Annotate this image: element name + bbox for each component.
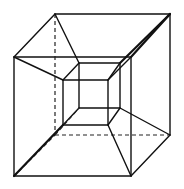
- inner-cube: [63, 63, 120, 125]
- connector-front-bottom-right: [108, 125, 131, 176]
- inner-back-face: [79, 63, 120, 108]
- inner-edge-tl: [63, 63, 79, 80]
- outer-edge-top-left: [14, 14, 55, 57]
- connector-back-bottom-right: [120, 108, 170, 135]
- inner-edge-br: [108, 108, 120, 125]
- tesseract-diagram: [0, 0, 184, 189]
- connector-front-top-left: [14, 57, 63, 80]
- connector-back-top-left: [55, 14, 79, 63]
- outer-edge-bottom-right: [131, 135, 170, 176]
- connector-front-bottom-left: [14, 125, 63, 176]
- connector-edges: [14, 14, 170, 176]
- tesseract-drawing: [0, 0, 184, 189]
- connector-back-top-right: [120, 14, 170, 63]
